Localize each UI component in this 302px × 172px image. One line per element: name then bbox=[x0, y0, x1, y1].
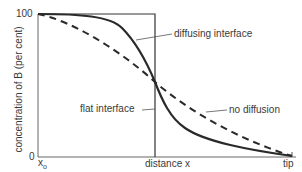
annotation-no-diffusion: no diffusion bbox=[229, 105, 280, 115]
y-tick-0: 0 bbox=[29, 152, 35, 162]
x-tick-tip: tip bbox=[283, 159, 294, 169]
flat-leader bbox=[142, 109, 155, 110]
flat-interface-line bbox=[38, 14, 155, 157]
annotation-flat-interface: flat interface bbox=[80, 104, 134, 114]
y-tick-100: 100 bbox=[16, 9, 33, 19]
y-axis-label: concentration of B (per cent) bbox=[13, 20, 24, 160]
nodiff-leader bbox=[206, 110, 227, 112]
diffusing-leader bbox=[136, 34, 172, 40]
x-label-distance: distance x bbox=[145, 159, 190, 169]
chart-canvas bbox=[0, 0, 302, 172]
annotation-diffusing-interface: diffusing interface bbox=[174, 29, 252, 39]
x-origin-subscript: o bbox=[43, 163, 47, 170]
x-tick-origin: xo bbox=[38, 158, 47, 170]
